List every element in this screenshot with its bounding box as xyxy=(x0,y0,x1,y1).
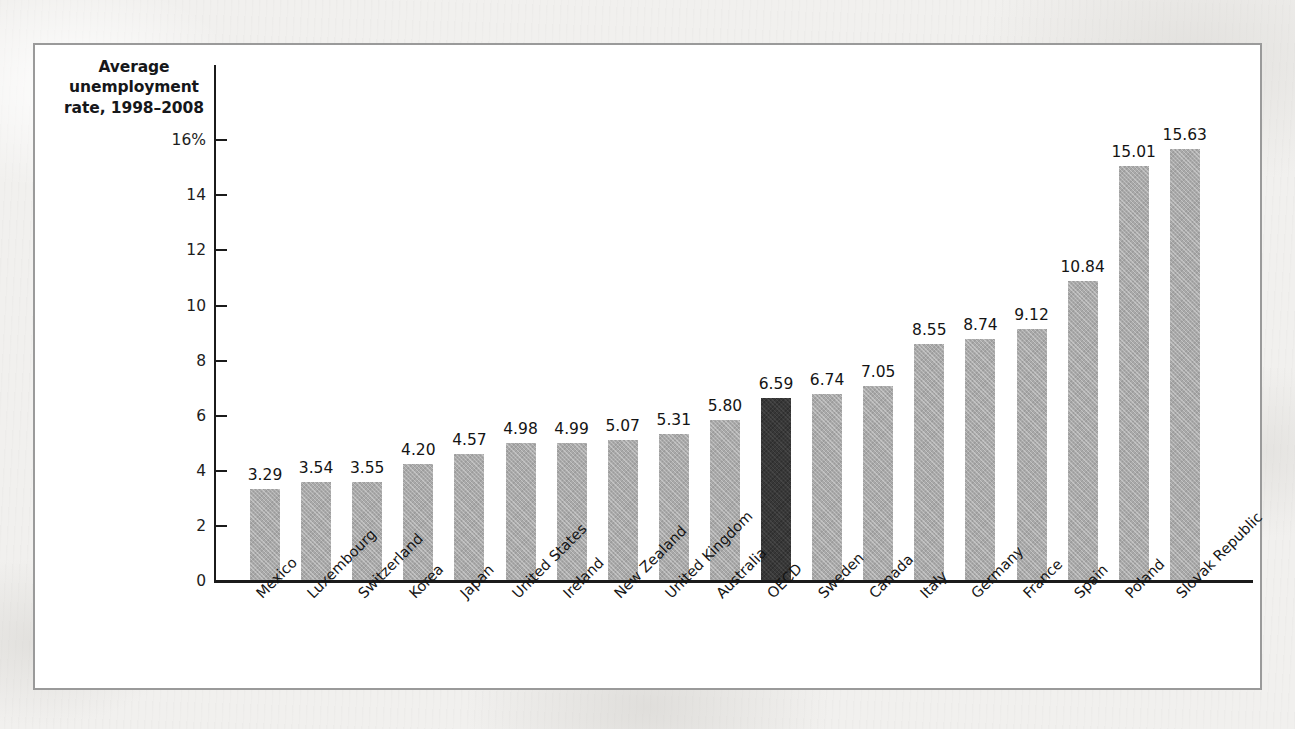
chart-panel: Average unemployment rate, 1998–2008 024… xyxy=(33,43,1262,690)
y-tick-mark xyxy=(216,580,227,582)
bar-value-label: 8.74 xyxy=(963,316,998,334)
bar xyxy=(301,482,331,580)
bar xyxy=(812,394,842,580)
y-axis-title-line-1: Average xyxy=(53,57,215,77)
bar xyxy=(1017,329,1047,580)
bar-value-label: 4.99 xyxy=(554,420,589,438)
y-axis-title-line-2: unemployment xyxy=(53,77,215,97)
plot-area: Average unemployment rate, 1998–2008 024… xyxy=(35,45,1260,688)
y-tick-label: 10 xyxy=(148,297,206,315)
y-tick-mark xyxy=(216,139,227,141)
bar xyxy=(1170,149,1200,580)
bar-value-label: 8.55 xyxy=(912,321,947,339)
y-tick-mark xyxy=(216,415,227,417)
bar xyxy=(965,339,995,580)
bar-value-label: 15.01 xyxy=(1112,143,1156,161)
y-tick-label: 14 xyxy=(148,186,206,204)
y-tick-label: 16% xyxy=(148,131,206,149)
bar-value-label: 4.98 xyxy=(503,420,538,438)
bar xyxy=(1119,166,1149,580)
y-tick-mark xyxy=(216,249,227,251)
bar-value-label: 7.05 xyxy=(861,363,896,381)
bar-value-label: 6.59 xyxy=(759,375,794,393)
y-axis-title: Average unemployment rate, 1998–2008 xyxy=(53,57,215,118)
bar-value-label: 4.57 xyxy=(452,431,487,449)
y-axis-line xyxy=(214,65,216,582)
bar-value-label: 5.07 xyxy=(605,417,640,435)
bar-value-label: 4.20 xyxy=(401,441,436,459)
y-tick-label: 2 xyxy=(148,517,206,535)
y-tick-mark xyxy=(216,360,227,362)
bar-value-label: 5.31 xyxy=(657,411,692,429)
bar xyxy=(1068,281,1098,580)
y-tick-label: 12 xyxy=(148,241,206,259)
bar xyxy=(454,454,484,580)
bar-value-label: 3.55 xyxy=(350,459,385,477)
bar xyxy=(608,440,638,580)
y-tick-label: 0 xyxy=(148,572,206,590)
y-axis-title-line-3: rate, 1998–2008 xyxy=(53,98,215,118)
y-tick-mark xyxy=(216,194,227,196)
bar-value-label: 6.74 xyxy=(810,371,845,389)
y-tick-label: 8 xyxy=(148,352,206,370)
bar xyxy=(506,443,536,580)
bar xyxy=(914,344,944,580)
y-tick-label: 4 xyxy=(148,462,206,480)
bar-value-label: 10.84 xyxy=(1060,258,1104,276)
bar-value-label: 9.12 xyxy=(1014,306,1049,324)
bar xyxy=(863,386,893,580)
y-tick-mark xyxy=(216,525,227,527)
bar-value-label: 3.54 xyxy=(299,459,334,477)
y-tick-label: 6 xyxy=(148,407,206,425)
bar xyxy=(403,464,433,580)
y-tick-mark xyxy=(216,305,227,307)
bar-value-label: 15.63 xyxy=(1163,126,1207,144)
bar-value-label: 3.29 xyxy=(248,466,283,484)
y-tick-mark xyxy=(216,470,227,472)
bar-value-label: 5.80 xyxy=(708,397,743,415)
